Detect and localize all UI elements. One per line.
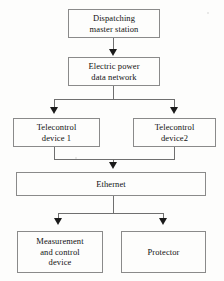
edge-network-split-bus [54, 99, 174, 100]
edge-telecontrol1-to-ethernet-line [54, 147, 55, 159]
node-protector: Protector [121, 231, 206, 273]
edge-ethernet-merge-bus [54, 159, 175, 160]
edge-network-to-telecontrol1-arrowhead [50, 107, 58, 114]
node-measurement-and-control-device-label: Measurement and control device [32, 236, 87, 268]
edge-dispatching-to-network-arrowhead [109, 49, 117, 56]
node-telecontrol-device-2-label: Telecontrol device2 [151, 122, 199, 143]
scan-speck [207, 12, 209, 14]
edge-ethernet-to-protector-arrowhead [159, 218, 167, 225]
edge-network-to-telecontrol2-arrowhead [170, 107, 178, 114]
node-telecontrol-device-2: Telecontrol device2 [133, 118, 216, 147]
node-protector-label: Protector [143, 247, 183, 258]
edge-network-split-stem [113, 86, 114, 99]
edge-ethernet-to-measurement-arrowhead [54, 218, 62, 225]
node-ethernet-label: Ethernet [92, 179, 130, 190]
node-electric-power-data-network-label: Electric power data network [84, 61, 143, 82]
node-electric-power-data-network: Electric power data network [68, 57, 160, 86]
node-telecontrol-device-1: Telecontrol device 1 [13, 118, 100, 147]
node-telecontrol-device-1-label: Telecontrol device 1 [33, 122, 81, 143]
edge-ethernet-split-bus [58, 213, 164, 214]
edge-ethernet-merge-arrowhead [109, 162, 117, 169]
node-dispatching-master-station: Dispatching master station [68, 9, 160, 38]
edge-ethernet-split-stem [113, 196, 114, 213]
node-dispatching-master-station-label: Dispatching master station [86, 13, 143, 34]
node-ethernet: Ethernet [16, 172, 206, 196]
edge-telecontrol2-to-ethernet-line [174, 147, 175, 159]
diagram-canvas: Dispatching master station Electric powe… [0, 0, 224, 281]
node-measurement-and-control-device: Measurement and control device [17, 231, 103, 273]
